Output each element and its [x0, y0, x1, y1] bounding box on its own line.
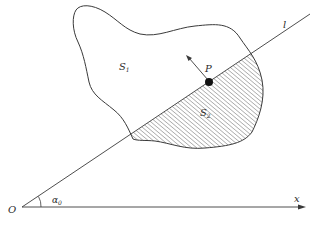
angle-arc — [39, 197, 42, 208]
region-s2-hatch — [0, 14, 314, 227]
label-alpha0: α0 — [52, 195, 62, 206]
label-origin: O — [8, 204, 16, 215]
x-axis-arrowhead-icon — [298, 205, 306, 210]
label-p: P — [204, 63, 212, 74]
label-l: l — [283, 19, 286, 30]
point-p — [205, 78, 213, 86]
label-x: x — [294, 193, 300, 204]
geometry-diagram: S1 S2 P l O x α0 — [0, 0, 314, 227]
label-s1: S1 — [119, 61, 130, 73]
line-l — [22, 14, 310, 207]
